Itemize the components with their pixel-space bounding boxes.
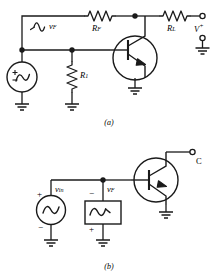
label-vf-a: vF <box>49 21 56 31</box>
label-vin-sub: in <box>59 187 64 193</box>
supply-terminal-node <box>200 13 205 18</box>
polarity-vin-top: + <box>37 189 42 199</box>
feedback-sine-marker <box>31 23 45 31</box>
node-dot-collector-a <box>132 13 137 18</box>
ground-vf-b <box>96 240 110 246</box>
circuit-figure: vF RF R1 RL V+ (a) vin vF + − − + C (b) <box>0 0 218 279</box>
load-resistor <box>160 11 190 21</box>
schematic-canvas <box>0 0 218 279</box>
label-vf-b: vF <box>107 184 114 194</box>
bias-resistor <box>67 62 77 92</box>
label-rf: RF <box>92 23 101 33</box>
node-dot-b <box>100 177 105 182</box>
label-rl-sub: L <box>172 26 175 32</box>
ground-source-a <box>15 104 29 110</box>
label-rl: RL <box>167 23 176 33</box>
ac-input-source <box>37 196 66 225</box>
polarity-vin-bottom: − <box>38 222 43 232</box>
ground-r1-a <box>65 104 79 110</box>
panel-a-schematic <box>7 11 210 110</box>
label-vin: vin <box>55 184 63 194</box>
npn-transistor-b <box>131 152 178 205</box>
label-vf-a-sub: F <box>53 24 57 30</box>
ground-supply-a <box>196 48 210 54</box>
polarity-vf-top: − <box>89 188 94 198</box>
feedback-resistor <box>85 11 115 21</box>
panel-b-schematic <box>37 149 196 246</box>
polarity-vf-bottom: + <box>89 224 94 234</box>
npn-transistor-a <box>110 16 157 84</box>
ground-emitter-a <box>128 88 142 94</box>
node-dot-left-a <box>19 47 24 52</box>
label-vsupply: V+ <box>194 22 204 34</box>
collector-terminal-node <box>190 149 195 154</box>
ground-emitter-b <box>159 212 173 218</box>
node-dot-r1-a <box>69 47 74 52</box>
caption-b: (b) <box>0 262 218 271</box>
label-vsupply-sup: + <box>199 22 203 29</box>
caption-a: (a) <box>0 118 218 127</box>
ac-voltage-source <box>7 62 37 92</box>
label-r1: R1 <box>80 70 88 80</box>
supply-ground-terminal <box>200 35 205 40</box>
ground-vin-b <box>44 240 58 246</box>
feedback-source-box <box>85 201 121 224</box>
label-vf-b-sub: F <box>111 187 115 193</box>
label-r1-sub: 1 <box>85 73 88 79</box>
label-rf-sub: F <box>97 26 101 32</box>
label-collector-terminal: C <box>196 156 202 166</box>
